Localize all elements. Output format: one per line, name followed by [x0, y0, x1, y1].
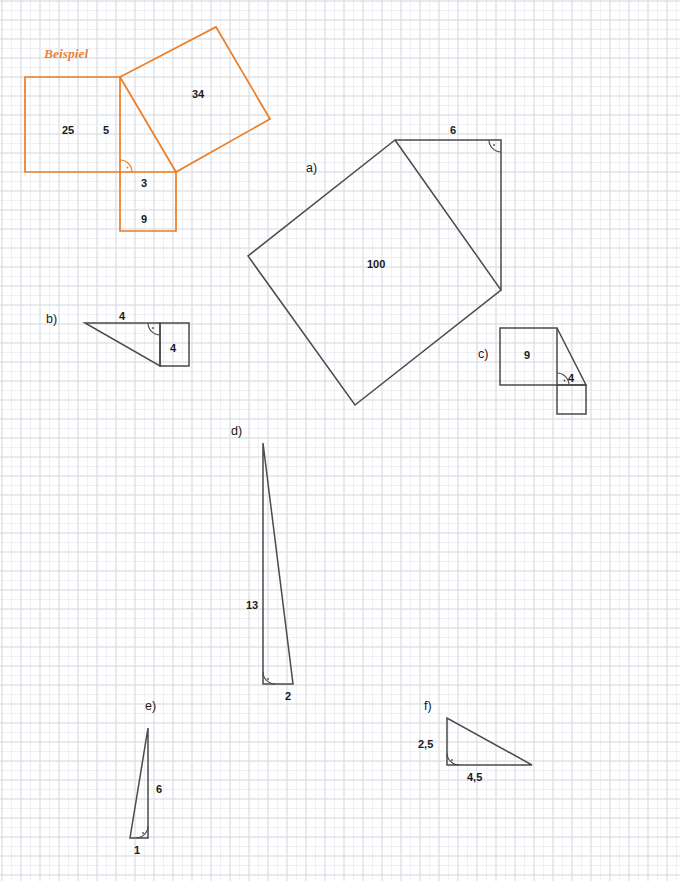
figure-f [447, 718, 532, 765]
figure-f-right-angle-marker [447, 753, 459, 765]
example-title: Beispiel [44, 47, 88, 61]
figure-e-marker: e) [145, 700, 156, 713]
example-label-9: 9 [141, 214, 147, 225]
figure-d-label-13: 13 [246, 600, 258, 611]
figure-a-right-angle-dot [493, 144, 495, 146]
figure-a-marker: a) [306, 162, 317, 175]
example-label-3: 3 [141, 178, 147, 189]
figure-a-right-angle-marker [489, 140, 501, 152]
figure-b-right-angle-marker [148, 323, 160, 335]
figure-b-marker: b) [46, 313, 57, 326]
figure-e-right-angle-dot [142, 832, 144, 834]
example-right-angle-dot [127, 167, 129, 169]
figures-layer [0, 0, 680, 881]
figure-d [263, 443, 293, 684]
figure-c-right-angle-dot [564, 380, 566, 382]
figure-f-right-angle-dot [451, 759, 453, 761]
figure-e-label-6: 6 [156, 784, 162, 795]
figure-c [500, 328, 586, 414]
figure-c-label-4: 4 [568, 373, 574, 384]
figure-f-triangle [447, 718, 532, 765]
figure-b-label-square: 4 [170, 343, 176, 354]
figure-d-right-angle-dot [267, 678, 269, 680]
figure-c-marker: c) [478, 348, 488, 361]
figure-a-label-100: 100 [367, 259, 385, 270]
example-right-angle-marker [120, 160, 132, 172]
figure-e-triangle [130, 728, 148, 838]
figure-d-triangle [263, 443, 293, 684]
figure-d-marker: d) [231, 425, 242, 438]
example-label-5: 5 [103, 125, 109, 136]
example-label-34: 34 [192, 89, 204, 100]
figure-d-right-angle-marker [263, 672, 275, 684]
figure-d-label-2: 2 [285, 691, 291, 702]
example-label-25: 25 [62, 125, 74, 136]
figure-a-square-100 [248, 140, 501, 405]
figure-a [248, 140, 501, 405]
figure-f-label-25: 2,5 [418, 739, 433, 750]
figure-b-right-angle-dot [152, 327, 154, 329]
figure-a-label-6: 6 [450, 125, 456, 136]
figure-c-label-9: 9 [524, 350, 530, 361]
figure-b-label-top: 4 [119, 311, 125, 322]
geometry-worksheet: Beispiel 25 5 3 9 34 a) 100 6 b) 4 4 c) … [0, 0, 680, 881]
figure-b-triangle [85, 323, 160, 366]
figure-e [130, 728, 148, 838]
figure-e-right-angle-marker [136, 826, 148, 838]
figure-f-marker: f) [424, 700, 432, 713]
example-square-9 [120, 172, 176, 231]
figure-e-label-1: 1 [134, 845, 140, 856]
figure-c-square-4 [557, 385, 586, 414]
figure-f-label-45: 4,5 [467, 772, 482, 783]
